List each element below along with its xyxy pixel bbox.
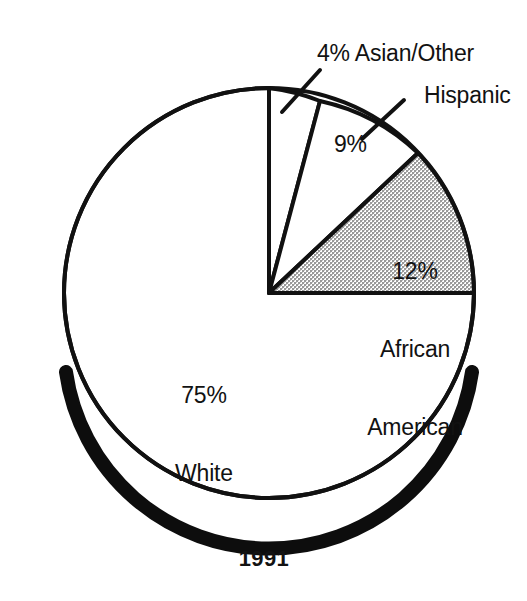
slice-label-hispanic: Hispanic <box>424 82 511 108</box>
pie-chart-figure: 4% Asian/Other Hispanic 9% 12% African A… <box>0 0 527 601</box>
slice-value-hispanic: 9% <box>334 131 367 157</box>
slice-label-white-name: White <box>138 460 270 486</box>
slice-value-white: 75% <box>138 382 270 408</box>
slice-label-african-american: 12% African American <box>348 206 482 492</box>
slice-value-african-american: 12% <box>348 258 482 284</box>
slice-label-african-american-line1: African <box>348 336 482 362</box>
slice-label-asian-other: 4% Asian/Other <box>317 40 474 66</box>
slice-label-white: 75% White <box>138 330 270 538</box>
slice-label-african-american-line2: American <box>348 414 482 440</box>
chart-caption-year: 1991 <box>184 546 344 572</box>
